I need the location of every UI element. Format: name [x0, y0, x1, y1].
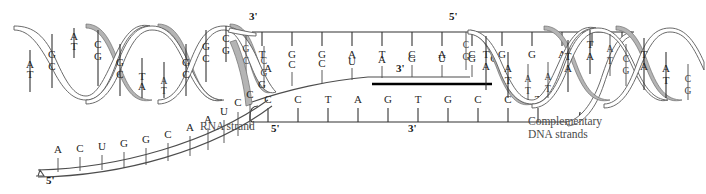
coding-strand-five-prime-label: 5' [271, 122, 280, 135]
svg-text:G: G [94, 50, 102, 62]
svg-text:A: A [482, 60, 490, 72]
rna-tail-bases: A C U G G C A A U C C G [54, 78, 266, 155]
svg-text:C: C [116, 68, 123, 80]
svg-text:T: T [587, 38, 594, 50]
template-strand-three-prime-label: 3' [249, 10, 258, 23]
svg-text:C: C [222, 32, 229, 44]
svg-text:U: U [98, 140, 106, 152]
svg-text:A: A [504, 62, 512, 74]
svg-text:A: A [264, 62, 272, 74]
svg-text:C: C [623, 54, 629, 64]
left-helix-rungs: T A G C A T C G G C T A A T [26, 26, 268, 98]
svg-text:G: G [685, 86, 692, 96]
svg-text:A: A [354, 93, 362, 105]
svg-text:A: A [186, 121, 194, 133]
svg-text:G: G [528, 48, 536, 60]
svg-text:G: G [48, 48, 56, 60]
svg-text:A: A [161, 76, 168, 86]
svg-text:T: T [483, 48, 490, 60]
svg-text:T: T [325, 93, 332, 105]
svg-text:T: T [415, 93, 422, 105]
svg-text:A: A [378, 53, 386, 65]
svg-text:C: C [318, 57, 325, 69]
svg-text:T: T [71, 40, 78, 52]
svg-text:T: T [259, 48, 266, 60]
svg-text:C: C [164, 128, 171, 140]
svg-text:C: C [48, 60, 55, 72]
svg-text:A: A [564, 62, 572, 74]
svg-text:U: U [438, 52, 446, 64]
svg-text:C: C [182, 68, 189, 80]
svg-text:G: G [182, 56, 190, 68]
svg-text:G: G [222, 44, 230, 56]
svg-text:T: T [505, 74, 512, 86]
svg-text:C: C [264, 93, 271, 105]
svg-text:G: G [623, 66, 630, 76]
rna-strand-caption: RNA strand [200, 120, 255, 134]
svg-text:G: G [142, 133, 150, 145]
svg-text:G: G [384, 93, 392, 105]
svg-text:T: T [525, 86, 531, 96]
template-strand-five-prime-label: 5' [449, 10, 458, 23]
left-helix-group: T A G C A T C G G C T A A T [14, 24, 276, 104]
dna-diagram-canvas: T A G C A T C G G C T A A T [0, 0, 706, 194]
svg-text:A: A [138, 80, 146, 92]
svg-text:G: G [463, 52, 470, 62]
svg-text:T: T [641, 48, 648, 60]
complementary-dna-caption-line2: DNA strands [528, 128, 588, 142]
transcription-bubble-group: T G G A T C A C G G A [228, 28, 634, 126]
svg-text:G: G [202, 40, 210, 52]
svg-text:C: C [463, 40, 469, 50]
svg-text:G: G [258, 78, 266, 90]
svg-text:G: G [444, 93, 452, 105]
svg-text:C: C [294, 93, 301, 105]
svg-text:A: A [26, 58, 34, 70]
svg-text:G: G [120, 137, 128, 149]
rna-five-prime-label: 5' [46, 174, 55, 187]
right-helix-group: C G T A A T A T A T T A T A [463, 26, 704, 108]
svg-text:C: C [685, 74, 691, 84]
coding-strand-bases: C C T A G T G C C T [264, 93, 541, 105]
svg-text:G: G [116, 56, 124, 68]
svg-text:C: C [202, 52, 209, 64]
svg-text:U: U [220, 105, 228, 117]
rna-tail-line-lower [38, 106, 272, 177]
svg-text:C: C [246, 88, 253, 100]
svg-text:A: A [607, 44, 614, 54]
svg-text:T: T [607, 56, 613, 66]
svg-text:A: A [662, 62, 670, 74]
svg-text:C: C [76, 142, 83, 154]
dna-transcription-figure: T A G C A T C G G C T A A T [0, 0, 706, 194]
svg-text:C: C [288, 58, 295, 70]
svg-text:A: A [586, 50, 594, 62]
svg-text:A: A [54, 143, 62, 155]
svg-text:T: T [545, 84, 551, 94]
complementary-dna-caption-line1: Complementary [528, 115, 602, 129]
svg-text:C: C [474, 93, 481, 105]
rna-tail-backbone [36, 170, 44, 176]
svg-text:T: T [663, 74, 670, 86]
svg-text:G: G [408, 52, 416, 64]
svg-text:A: A [525, 74, 532, 84]
svg-text:C: C [234, 96, 241, 108]
coding-strand-three-prime-label: 3' [408, 122, 417, 135]
svg-text:G: G [243, 44, 250, 54]
svg-text:A: A [545, 72, 552, 82]
svg-text:A: A [640, 60, 648, 72]
svg-text:T: T [565, 50, 572, 62]
rna-three-prime-label: 3' [396, 62, 405, 75]
svg-text:T: T [161, 86, 167, 96]
rna-tail-line-upper [38, 100, 268, 170]
svg-text:C: C [94, 38, 101, 50]
coding-strand-ticks [268, 108, 538, 122]
svg-text:U: U [348, 55, 356, 67]
